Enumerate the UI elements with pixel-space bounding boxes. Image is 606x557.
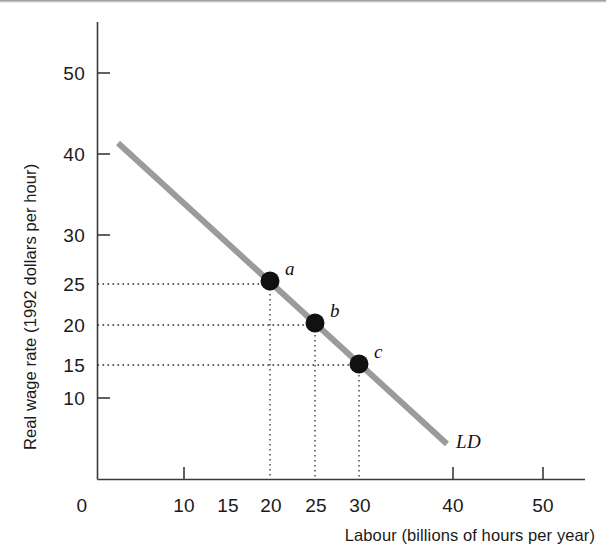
x-tick-label-10: 10 <box>173 495 195 516</box>
data-point-label-c: c <box>374 341 383 362</box>
y-tick-label-30: 30 <box>63 225 85 246</box>
labour-demand-curve-LD <box>118 143 447 444</box>
y-tick-label-10: 10 <box>63 388 85 409</box>
data-point-label-b: b <box>330 300 340 321</box>
x-axis-title: Labour (billions of hours per year) <box>345 526 595 544</box>
chart-svg: a b c LD 50 40 30 25 20 15 10 0 10 15 20… <box>0 0 606 557</box>
x-tick-label-25: 25 <box>305 495 327 516</box>
data-point-a <box>261 272 280 291</box>
y-tick-label-20: 20 <box>63 315 85 336</box>
y-tick-label-15: 15 <box>63 355 85 376</box>
x-tick-label-15: 15 <box>217 495 239 516</box>
data-point-b <box>306 314 325 333</box>
y-axis-ticks <box>98 73 111 398</box>
x-tick-label-30: 30 <box>349 495 371 516</box>
curve-label-LD: LD <box>455 431 481 452</box>
data-point-c <box>350 355 369 374</box>
axes <box>98 22 586 480</box>
dotted-guides <box>98 284 360 480</box>
data-points <box>261 272 369 374</box>
x-tick-label-40: 40 <box>442 495 464 516</box>
y-tick-label-50: 50 <box>63 63 85 84</box>
x-tick-label-20: 20 <box>260 495 282 516</box>
y-tick-label-25: 25 <box>63 274 85 295</box>
labour-demand-chart: a b c LD 50 40 30 25 20 15 10 0 10 15 20… <box>0 0 606 557</box>
data-point-label-a: a <box>285 258 295 279</box>
x-tick-label-50: 50 <box>532 495 554 516</box>
y-tick-label-40: 40 <box>63 144 85 165</box>
x-axis-ticks <box>184 467 543 480</box>
y-axis-title: Real wage rate (1992 dollars per hour) <box>21 164 39 450</box>
x-tick-label-0: 0 <box>77 495 88 516</box>
